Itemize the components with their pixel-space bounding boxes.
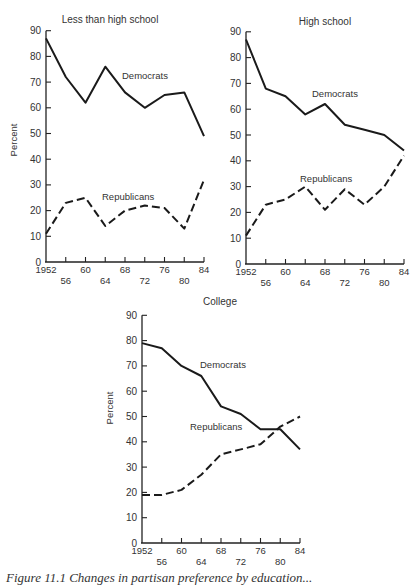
y-tick-label: 30 xyxy=(126,462,138,473)
chart-college: College0102030405060708090Percent1952606… xyxy=(0,290,420,579)
y-tick-label: 80 xyxy=(126,335,138,346)
y-tick-label: 60 xyxy=(230,104,242,115)
x-tick-label: 56 xyxy=(260,277,271,288)
x-tick-label: 64 xyxy=(300,277,311,288)
republicans-label: Republicans xyxy=(190,421,243,432)
x-tick-label: 84 xyxy=(399,266,410,277)
y-tick-label: 90 xyxy=(126,310,138,321)
y-tick-label: 10 xyxy=(230,233,242,244)
republicans-label: Republicans xyxy=(300,173,353,184)
x-tick-label: 76 xyxy=(359,266,370,277)
y-tick-label: 80 xyxy=(230,52,242,63)
y-tick-label: 50 xyxy=(126,411,138,422)
democrats-label: Democrats xyxy=(312,88,358,99)
y-axis-label: Percent xyxy=(104,391,115,424)
y-tick-label: 70 xyxy=(230,78,242,89)
y-tick-label: 20 xyxy=(230,207,242,218)
y-tick-label: 30 xyxy=(230,181,242,192)
x-tick-label: 80 xyxy=(275,556,286,567)
republicans-line xyxy=(246,156,404,236)
democrats-label: Democrats xyxy=(200,359,246,370)
x-tick-label: 68 xyxy=(320,266,331,277)
x-tick-label: 80 xyxy=(379,277,390,288)
chart-title: College xyxy=(203,296,237,307)
x-tick-label: 72 xyxy=(339,277,350,288)
y-tick-label: 60 xyxy=(126,386,138,397)
x-tick-label: 1952 xyxy=(131,545,152,556)
y-tick-label: 50 xyxy=(230,130,242,141)
x-tick-label: 56 xyxy=(156,556,167,567)
figure-caption: Figure 11.1 Changes in partisan preferen… xyxy=(6,570,312,586)
chart-svg: College0102030405060708090Percent1952606… xyxy=(0,290,420,579)
y-tick-label: 90 xyxy=(230,26,242,37)
x-tick-label: 68 xyxy=(216,545,227,556)
y-tick-label: 70 xyxy=(126,360,138,371)
x-tick-label: 84 xyxy=(295,545,306,556)
x-tick-label: 60 xyxy=(176,545,187,556)
x-tick-label: 76 xyxy=(255,545,266,556)
x-tick-label: 60 xyxy=(280,266,291,277)
chart-high-school: High school01020304050607080901952606876… xyxy=(0,0,420,295)
x-tick-label: 72 xyxy=(235,556,246,567)
chart-title: High school xyxy=(299,16,351,27)
y-tick-label: 40 xyxy=(230,155,242,166)
y-tick-label: 40 xyxy=(126,436,138,447)
x-tick-label: 1952 xyxy=(235,266,256,277)
chart-svg: High school01020304050607080901952606876… xyxy=(0,0,420,295)
x-tick-label: 64 xyxy=(196,556,207,567)
y-tick-label: 20 xyxy=(126,487,138,498)
y-tick-label: 10 xyxy=(126,512,138,523)
